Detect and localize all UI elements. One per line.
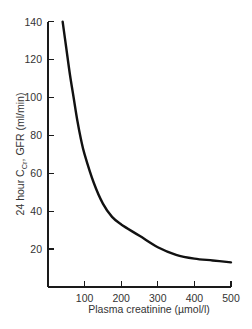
x-tick-label: 400: [186, 292, 204, 304]
chart: 20 40 60 80 100 120 140 100 200 300 400 …: [0, 0, 252, 329]
x-tick-label: 100: [76, 292, 94, 304]
y-tick-labels: 20 40 60 80 100 120 140: [24, 16, 42, 255]
x-tick-label: 200: [112, 292, 130, 304]
y-tick-label: 20: [30, 243, 42, 255]
y-tick-label: 120: [24, 53, 42, 65]
x-tick-label: 300: [149, 292, 167, 304]
y-tick-label: 100: [24, 91, 42, 103]
y-tick-label: 60: [30, 167, 42, 179]
y-tick-label: 40: [30, 205, 42, 217]
gfr-creatinine-curve: [63, 22, 231, 263]
y-axis-label-suffix: , GFR (ml/min): [14, 93, 26, 162]
y-axis-label-prefix: 24 hour C: [14, 169, 26, 216]
x-tick-label: 500: [222, 292, 240, 304]
x-ticks: [85, 281, 231, 287]
y-ticks: [48, 22, 54, 249]
y-axis-label: 24 hour CCr, GFR (ml/min): [14, 93, 29, 216]
y-tick-label: 80: [30, 129, 42, 141]
x-tick-labels: 100 200 300 400 500: [76, 292, 240, 304]
y-tick-label: 140: [24, 16, 42, 28]
x-axis-label: Plasma creatinine (µmol/l): [88, 303, 210, 315]
